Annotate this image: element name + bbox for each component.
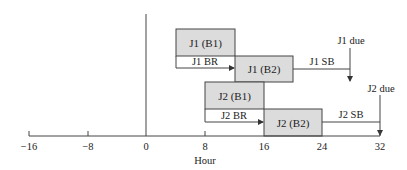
box-j1-b2: J1 (B2) xyxy=(235,56,293,82)
due-marker-j1: J1 due xyxy=(337,35,364,81)
axis-title: Hour xyxy=(194,155,216,166)
arrow-j2-br-label: J2 BR xyxy=(221,110,247,121)
due-marker-j2: J2 due xyxy=(367,83,394,135)
arrow-j2-br: J2 BR xyxy=(205,109,263,122)
box-j2-b2-label: J2 (B2) xyxy=(277,117,310,130)
box-j1-b2-label: J1 (B2) xyxy=(248,63,281,76)
tick-label: −16 xyxy=(21,141,37,152)
box-j1-b1: J1 (B1) xyxy=(176,29,235,56)
box-j1-b1-label: J1 (B1) xyxy=(189,37,222,50)
arrow-j1-br-label: J1 BR xyxy=(192,56,218,67)
tick-label: 32 xyxy=(375,141,386,152)
due-j2-label: J2 due xyxy=(367,83,394,94)
box-j2-b1: J2 (B1) xyxy=(205,82,264,109)
box-j2-b2: J2 (B2) xyxy=(264,109,322,136)
x-axis: −16 −8 0 8 16 24 32 Hour xyxy=(21,131,385,166)
arrow-j1-sb: J1 SB xyxy=(293,56,350,69)
tick-label: 8 xyxy=(202,141,207,152)
tick-label: −8 xyxy=(82,141,93,152)
tick-label: 0 xyxy=(143,141,148,152)
tick-label: 24 xyxy=(317,141,328,152)
arrow-j2-sb: J2 SB xyxy=(322,109,380,122)
box-j2-b1-label: J2 (B1) xyxy=(218,90,251,103)
arrow-j1-br: J1 BR xyxy=(176,56,234,68)
due-j1-label: J1 due xyxy=(337,35,364,46)
tick-label: 16 xyxy=(259,141,270,152)
timeline-diagram: J1 (B1) J1 BR J1 (B2) J1 SB J1 due J2 (B… xyxy=(0,0,407,170)
arrow-j2-sb-label: J2 SB xyxy=(339,109,364,120)
arrow-j1-sb-label: J1 SB xyxy=(310,56,335,67)
